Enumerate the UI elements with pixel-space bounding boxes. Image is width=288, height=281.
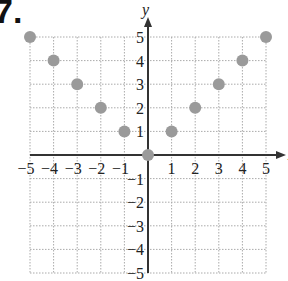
- x-tick-label: 4: [238, 160, 246, 177]
- data-point: [71, 78, 83, 90]
- x-axis-arrow-icon: [276, 151, 286, 159]
- y-tick-label: −1: [127, 171, 144, 188]
- x-tick-label: 2: [191, 160, 199, 177]
- y-tick-label: −2: [127, 194, 144, 211]
- x-tick-label: −4: [41, 160, 58, 177]
- x-axis-label: x: [287, 146, 288, 163]
- x-tick-label: 5: [262, 160, 270, 177]
- x-tick-label: −2: [88, 160, 105, 177]
- y-tick-label: 3: [136, 76, 144, 93]
- data-point: [95, 102, 107, 114]
- data-point: [24, 31, 36, 43]
- scatter-chart: xy−5−4−3−2−112345−5−4−3−2−112345: [0, 0, 288, 281]
- y-tick-label: 4: [136, 53, 144, 70]
- data-point: [236, 55, 248, 67]
- data-point: [142, 149, 154, 161]
- data-point: [189, 102, 201, 114]
- y-tick-label: −5: [127, 265, 144, 281]
- data-point: [118, 125, 130, 137]
- data-point: [48, 55, 60, 67]
- y-axis-label: y: [140, 1, 150, 19]
- y-tick-label: 2: [136, 100, 144, 117]
- data-point: [213, 78, 225, 90]
- y-tick-label: −4: [127, 241, 144, 258]
- x-tick-label: −5: [17, 160, 34, 177]
- x-tick-label: 3: [215, 160, 223, 177]
- x-tick-label: −3: [65, 160, 82, 177]
- data-point: [166, 125, 178, 137]
- y-axis-arrow-icon: [144, 17, 152, 27]
- y-tick-label: −3: [127, 218, 144, 235]
- y-tick-label: 5: [136, 29, 144, 46]
- data-point: [260, 31, 272, 43]
- y-tick-label: 1: [136, 123, 144, 140]
- x-tick-label: 1: [168, 160, 176, 177]
